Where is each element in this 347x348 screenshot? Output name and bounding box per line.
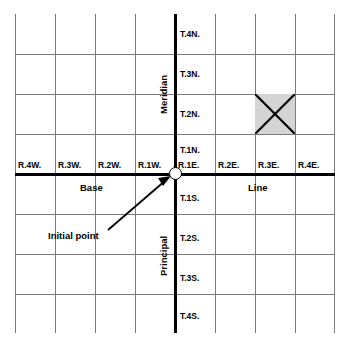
range-label-r3e: R.3E. bbox=[258, 161, 279, 170]
x-cross-icon bbox=[255, 94, 295, 134]
township-label-t4n: T.4N. bbox=[180, 30, 200, 39]
township-label-t2s: T.2S. bbox=[180, 234, 199, 243]
township-label-t3n: T.3N. bbox=[180, 70, 200, 79]
line-word-label: Line bbox=[248, 183, 268, 193]
township-label-t4s: T.4S. bbox=[180, 312, 199, 321]
range-label-r2e: R.2E. bbox=[218, 161, 239, 170]
range-label-r3w: R.3W. bbox=[58, 161, 81, 170]
township-label-t1n: T.1N. bbox=[180, 146, 200, 155]
meridian-word-label: Meridian bbox=[159, 75, 169, 114]
range-label-r1e: R.1E. bbox=[178, 161, 199, 170]
initial-point-marker bbox=[169, 167, 182, 180]
township-label-t1s: T.1S. bbox=[180, 194, 199, 203]
initial-point-label: Initial point bbox=[48, 231, 99, 241]
plss-grid-diagram: R.4W. R.3W. R.2W. R.1W. R.1E. R.2E. R.3E… bbox=[0, 0, 347, 348]
range-label-r1w: R.1W. bbox=[138, 161, 161, 170]
highlighted-section-cell bbox=[255, 94, 295, 134]
township-label-t2n: T.2N. bbox=[180, 110, 200, 119]
range-label-r4w: R.4W. bbox=[18, 161, 41, 170]
township-label-t3s: T.3S. bbox=[180, 274, 199, 283]
principal-word-label: Principal bbox=[159, 236, 169, 276]
base-word-label: Base bbox=[80, 183, 103, 193]
range-label-r4e: R.4E. bbox=[298, 161, 319, 170]
range-label-r2w: R.2W. bbox=[98, 161, 121, 170]
